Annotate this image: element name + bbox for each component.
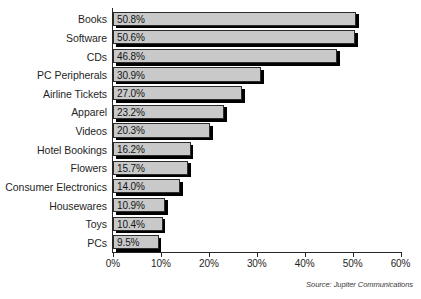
- bar-row: Flowers15.7%: [0, 159, 421, 178]
- category-label: Airline Tickets: [43, 88, 107, 100]
- category-label: Consumer Electronics: [5, 181, 107, 193]
- bar-row: Hotel Bookings16.2%: [0, 140, 421, 159]
- bar-value-label: 14.0%: [117, 181, 145, 192]
- bar-row: Videos20.3%: [0, 122, 421, 141]
- category-label: PCs: [87, 237, 107, 249]
- x-axis-tick-label: 20%: [186, 258, 232, 269]
- bar-row: Airline Tickets27.0%: [0, 85, 421, 104]
- category-label: Flowers: [71, 162, 107, 174]
- x-axis-tick-label: 10%: [138, 258, 184, 269]
- x-axis-tick-label: 0%: [90, 258, 136, 269]
- bar-row: Consumer Electronics14.0%: [0, 178, 421, 197]
- x-axis-tick: [113, 252, 114, 257]
- bar-value-label: 9.5%: [117, 237, 139, 248]
- bar-value-label: 30.9%: [117, 69, 145, 80]
- category-label: Software: [66, 32, 107, 44]
- x-axis-tick: [401, 252, 402, 257]
- bar: 15.7%: [113, 161, 188, 175]
- bar-face: [113, 49, 337, 63]
- x-axis-tick: [353, 252, 354, 257]
- bar-row: Apparel23.2%: [0, 103, 421, 122]
- bar: 14.0%: [113, 179, 180, 193]
- bar-value-label: 50.6%: [117, 32, 145, 43]
- bar-value-label: 20.3%: [117, 125, 145, 136]
- source-note: Source: Jupiter Communications: [306, 280, 413, 289]
- bar-value-label: 23.2%: [117, 106, 145, 117]
- bar-value-label: 16.2%: [117, 144, 145, 155]
- category-label: Toys: [86, 218, 107, 230]
- bar: 23.2%: [113, 105, 224, 119]
- bar-face: [113, 30, 355, 44]
- category-label: Housewares: [49, 200, 107, 212]
- x-axis-tick: [257, 252, 258, 257]
- bar: 46.8%: [113, 49, 337, 63]
- bar: 50.6%: [113, 30, 355, 44]
- bar: 20.3%: [113, 123, 210, 137]
- bar-value-label: 27.0%: [117, 88, 145, 99]
- bar-row: CDs46.8%: [0, 47, 421, 66]
- bar-value-label: 15.7%: [117, 162, 145, 173]
- bar-value-label: 50.8%: [117, 13, 145, 24]
- bar: 10.4%: [113, 217, 163, 231]
- bar-row: Toys10.4%: [0, 215, 421, 234]
- bar-row: PCs9.5%: [0, 234, 421, 253]
- bar-row: Housewares10.9%: [0, 196, 421, 215]
- bar: 9.5%: [113, 235, 159, 249]
- category-label: Apparel: [71, 106, 107, 118]
- bar: 27.0%: [113, 86, 242, 100]
- bar: 10.9%: [113, 198, 165, 212]
- x-axis-tick-label: 30%: [234, 258, 280, 269]
- bar-value-label: 10.4%: [117, 218, 145, 229]
- x-axis-tick: [209, 252, 210, 257]
- bar-row: PC Peripherals30.9%: [0, 66, 421, 85]
- bar-row: Software50.6%: [0, 29, 421, 48]
- category-label: PC Peripherals: [37, 69, 107, 81]
- bar: 30.9%: [113, 67, 261, 81]
- bar-row: Books50.8%: [0, 10, 421, 29]
- x-axis-tick-label: 50%: [330, 258, 376, 269]
- x-axis-tick: [161, 252, 162, 257]
- bar: 16.2%: [113, 142, 191, 156]
- bar-chart: Books50.8%Software50.6%CDs46.8%PC Periph…: [0, 0, 421, 299]
- bar-face: [113, 12, 356, 26]
- bar-value-label: 10.9%: [117, 199, 145, 210]
- bar: 50.8%: [113, 12, 356, 26]
- category-label: CDs: [87, 51, 107, 63]
- y-axis-line: [112, 8, 113, 253]
- category-label: Books: [78, 13, 107, 25]
- x-axis-tick-label: 60%: [378, 258, 421, 269]
- bar-value-label: 46.8%: [117, 50, 145, 61]
- category-label: Hotel Bookings: [37, 144, 107, 156]
- x-axis-tick: [305, 252, 306, 257]
- category-label: Videos: [75, 125, 107, 137]
- x-axis-tick-label: 40%: [282, 258, 328, 269]
